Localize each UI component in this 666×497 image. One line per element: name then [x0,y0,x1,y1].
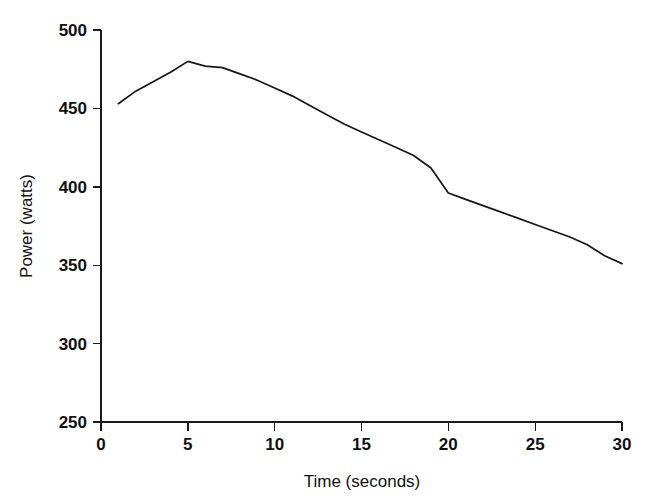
y-axis-tick-labels: 500 450 400 350 300 250 [59,21,87,432]
y-tick-label-500: 500 [59,21,87,40]
x-tick-label-5: 5 [183,435,192,454]
x-axis-title: Time (seconds) [304,472,421,491]
chart-svg: 500 450 400 350 300 250 0 5 10 15 20 25 … [0,0,666,497]
y-axis-ticks [93,30,101,422]
x-axis-ticks [101,422,622,431]
x-tick-label-10: 10 [265,435,284,454]
x-tick-label-15: 15 [352,435,371,454]
y-tick-label-450: 450 [59,99,87,118]
y-tick-label-300: 300 [59,335,87,354]
y-axis-title: Power (watts) [17,174,36,278]
y-tick-label-400: 400 [59,178,87,197]
power-series-line [118,61,622,263]
y-tick-label-250: 250 [59,413,87,432]
x-axis-tick-labels: 0 5 10 15 20 25 30 [96,435,631,454]
power-vs-time-chart: 500 450 400 350 300 250 0 5 10 15 20 25 … [0,0,666,497]
x-tick-label-20: 20 [439,435,458,454]
x-tick-label-25: 25 [526,435,545,454]
x-tick-label-0: 0 [96,435,105,454]
y-tick-label-350: 350 [59,256,87,275]
x-tick-label-30: 30 [613,435,632,454]
